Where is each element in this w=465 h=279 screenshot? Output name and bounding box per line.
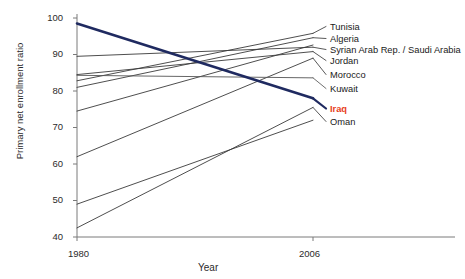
series-line-oman [77, 107, 313, 227]
leader-line-jordan [313, 52, 326, 61]
leader-line-morocco [313, 58, 326, 74]
y-tick-label-70: 70 [39, 121, 63, 132]
series-line-tunisia [77, 33, 313, 80]
series-line-kuwait [77, 75, 313, 78]
series-label-morocco: Morocco [330, 70, 366, 80]
y-tick-label-60: 60 [39, 158, 63, 169]
series-line-iraq [77, 23, 313, 98]
plot-area [0, 0, 465, 279]
x-tick-label-2006: 2006 [299, 248, 320, 259]
y-tick-label-50: 50 [39, 194, 63, 205]
series-line-algeria [77, 38, 313, 88]
leader-line-kuwait [313, 78, 326, 89]
series-label-jordan: Jordan [330, 56, 358, 66]
series-label-syrian-arab-rep-saudi-arabia: Syrian Arab Rep. / Saudi Arabia [330, 45, 461, 55]
y-tick-label-100: 100 [39, 12, 63, 23]
series-label-kuwait: Kuwait [330, 84, 358, 94]
y-tick-label-40: 40 [39, 231, 63, 242]
x-tick-label-1980: 1980 [68, 248, 89, 259]
y-tick-label-80: 80 [39, 85, 63, 96]
y-tick-label-90: 90 [39, 48, 63, 59]
leader-line-tunisia [313, 27, 326, 34]
series-line-morocco [77, 58, 313, 157]
series-label-algeria: Algeria [330, 34, 359, 44]
series-label-iraq: Iraq [330, 104, 347, 114]
leader-line-oman [313, 107, 326, 121]
y-axis-title: Primary net enrollment ratio [14, 43, 25, 160]
slopegraph-chart: 100 90 80 70 60 50 40 1980 2006 Year Pri… [0, 0, 465, 279]
series-line-unlabeled-rising-line [77, 120, 313, 204]
leader-line-iraq [313, 98, 326, 108]
series-label-oman: Oman [330, 117, 355, 127]
series-label-tunisia: Tunisia [330, 22, 360, 32]
leader-line-algeria [313, 38, 326, 39]
x-axis-title: Year [198, 262, 218, 273]
leader-line-syrian-arab-rep-saudi-arabia [313, 47, 326, 49]
y-axis-title-wrap: Primary net enrollment ratio [9, 36, 27, 166]
